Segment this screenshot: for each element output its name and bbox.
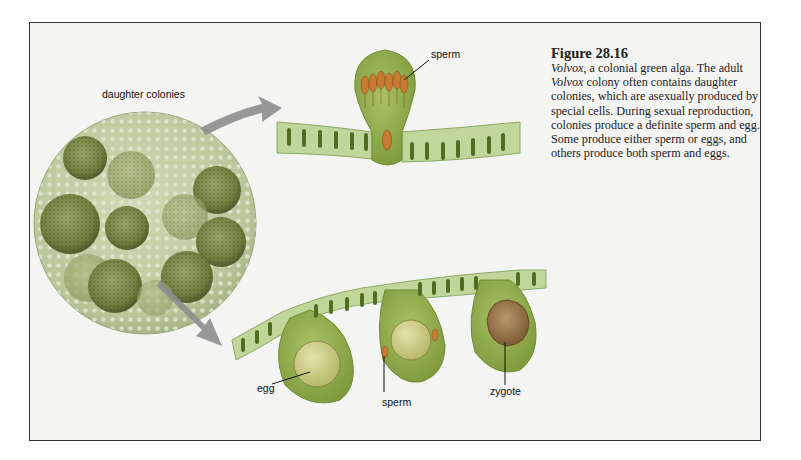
label-zygote: zygote xyxy=(490,385,521,397)
caption-italic-1: Volvox xyxy=(551,61,584,75)
figure-number: Figure 28.16 xyxy=(551,45,761,61)
label-egg: egg xyxy=(257,382,275,394)
label-sperm-bottom: sperm xyxy=(382,396,411,408)
label-daughter-colonies: daughter colonies xyxy=(102,88,185,100)
label-sperm-top: sperm xyxy=(431,48,460,60)
figure-caption: Figure 28.16 Volvox, a colonial green al… xyxy=(551,45,761,160)
sperm-packet-diagram xyxy=(277,50,520,165)
adult-colony xyxy=(34,112,256,334)
caption-italic-2: Volvox xyxy=(551,75,584,89)
egg-zygote-diagram xyxy=(232,270,546,403)
arrow-to-sperm-colony xyxy=(200,96,282,135)
caption-text-1: , a colonial green alga. The adult xyxy=(584,61,744,75)
